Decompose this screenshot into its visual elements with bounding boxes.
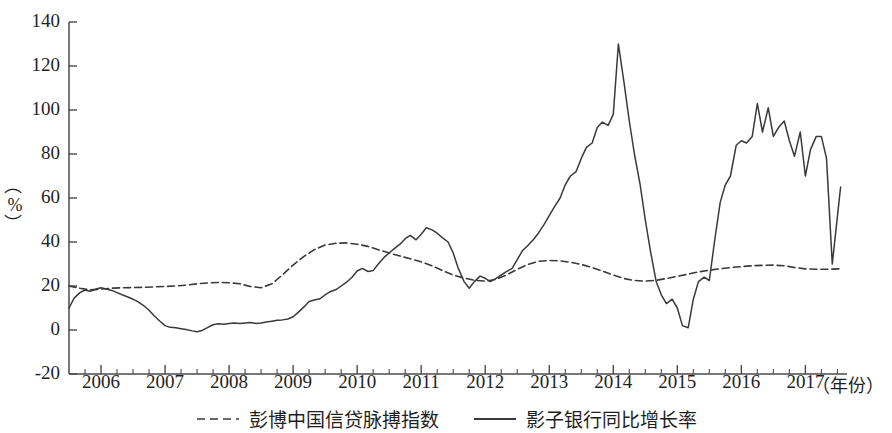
axis-lines <box>69 22 847 374</box>
x-tick-label: 2008 <box>199 371 259 393</box>
y-axis-title: （%） <box>2 176 42 232</box>
series-line-shadow-banking <box>69 44 841 332</box>
legend-dashed-line-icon <box>196 413 240 425</box>
y-tick-label: 100 <box>0 98 60 120</box>
series-lines <box>69 44 841 332</box>
legend-item-credit-pulse: 彭博中国信贷脉搏指数 <box>196 405 439 432</box>
chart-legend: 彭博中国信贷脉搏指数 影子银行同比增长率 <box>0 405 892 432</box>
x-tick-label: 2015 <box>647 371 707 393</box>
x-tick-label: 2016 <box>711 371 771 393</box>
y-tick-label: 0 <box>0 318 60 340</box>
series-line-credit-pulse <box>69 243 841 290</box>
x-tick-label: 2010 <box>327 371 387 393</box>
x-tick-label: 2014 <box>583 371 643 393</box>
legend-solid-line-icon <box>473 413 517 425</box>
y-tick-label: 40 <box>0 230 60 252</box>
x-tick-label: 2006 <box>71 371 131 393</box>
y-tick-label: 20 <box>0 274 60 296</box>
y-tick-label: -20 <box>0 362 60 384</box>
chart-figure: -20020406080100120140 200620072008200920… <box>0 0 892 433</box>
legend-label-shadow-banking: 影子银行同比增长率 <box>526 405 697 432</box>
x-tick-label: 2007 <box>135 371 195 393</box>
legend-label-credit-pulse: 彭博中国信贷脉搏指数 <box>249 405 439 432</box>
y-tick-label: 120 <box>0 54 60 76</box>
x-tick-label: 2013 <box>519 371 579 393</box>
y-tick-label: 80 <box>0 142 60 164</box>
x-tick-label: 2011 <box>391 371 451 393</box>
chart-plot-area <box>0 0 892 433</box>
y-tick-label: 140 <box>0 10 60 32</box>
x-tick-label: 2012 <box>455 371 515 393</box>
legend-item-shadow-banking: 影子银行同比增长率 <box>473 405 697 432</box>
x-tick-label: 2009 <box>263 371 323 393</box>
x-axis-title: （年份） <box>812 371 884 397</box>
